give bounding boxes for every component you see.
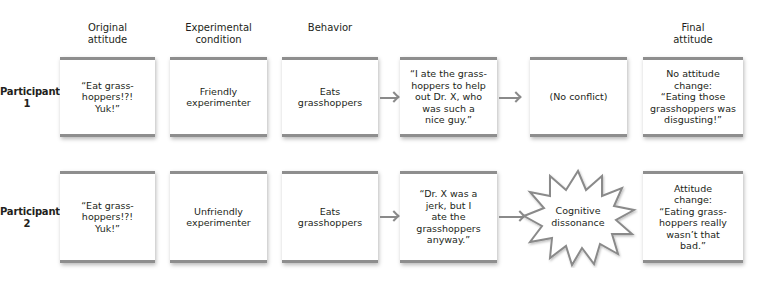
row2-behavior-text: Eats grasshoppers <box>294 206 366 229</box>
row2-condition-text: Unfriendly experimenter <box>182 206 254 229</box>
header-behavior: Behavior <box>282 22 378 34</box>
row1-behavior-text: Eats grasshoppers <box>294 86 366 109</box>
row1-justification-box: “I ate the grass- hoppers to help out Dr… <box>400 57 497 137</box>
header-original-attitude: Original attitude <box>60 22 155 46</box>
row2-condition-box: Unfriendly experimenter <box>170 171 267 263</box>
row1-original-attitude-text: “Eat grass- hoppers!?! Yuk!” <box>77 80 138 115</box>
row2-final-attitude-box: Attitude change: “Eating grass- hoppers … <box>643 171 743 263</box>
row2-original-attitude-box: “Eat grass- hoppers!?! Yuk!” <box>60 171 155 263</box>
row2-final-attitude-text: Attitude change: “Eating grass- hoppers … <box>655 183 731 252</box>
row1-final-attitude-box: No attitude change: “Eating those grassh… <box>643 57 743 137</box>
row1-original-attitude-box: “Eat grass- hoppers!?! Yuk!” <box>60 57 155 137</box>
row1-condition-text: Friendly experimenter <box>182 86 254 109</box>
row1-justification-text: “I ate the grass- hoppers to help out Dr… <box>406 68 491 126</box>
participant-1-label: Participant 1 <box>0 86 54 110</box>
row1-conflict-box: (No conflict) <box>530 57 627 137</box>
row1-conflict-text: (No conflict) <box>546 91 612 103</box>
right-arrow-icon <box>380 216 397 218</box>
right-arrow-icon <box>499 97 519 99</box>
row2-behavior-box: Eats grasshoppers <box>282 171 378 263</box>
row1-final-attitude-text: No attitude change: “Eating those grassh… <box>646 68 740 126</box>
row2-justification-text: “Dr. X was a jerk, but I ate the grassho… <box>412 188 484 246</box>
row1-behavior-box: Eats grasshoppers <box>282 57 378 137</box>
row2-conflict-text: Cognitive dissonance <box>538 205 618 228</box>
row2-original-attitude-text: “Eat grass- hoppers!?! Yuk!” <box>77 200 138 235</box>
row1-condition-box: Friendly experimenter <box>170 57 267 137</box>
header-experimental-condition: Experimental condition <box>170 22 267 46</box>
header-final-attitude: Final attitude <box>643 22 743 46</box>
participant-2-label: Participant 2 <box>0 206 54 230</box>
right-arrow-icon <box>380 97 397 99</box>
row2-justification-box: “Dr. X was a jerk, but I ate the grassho… <box>400 171 497 263</box>
